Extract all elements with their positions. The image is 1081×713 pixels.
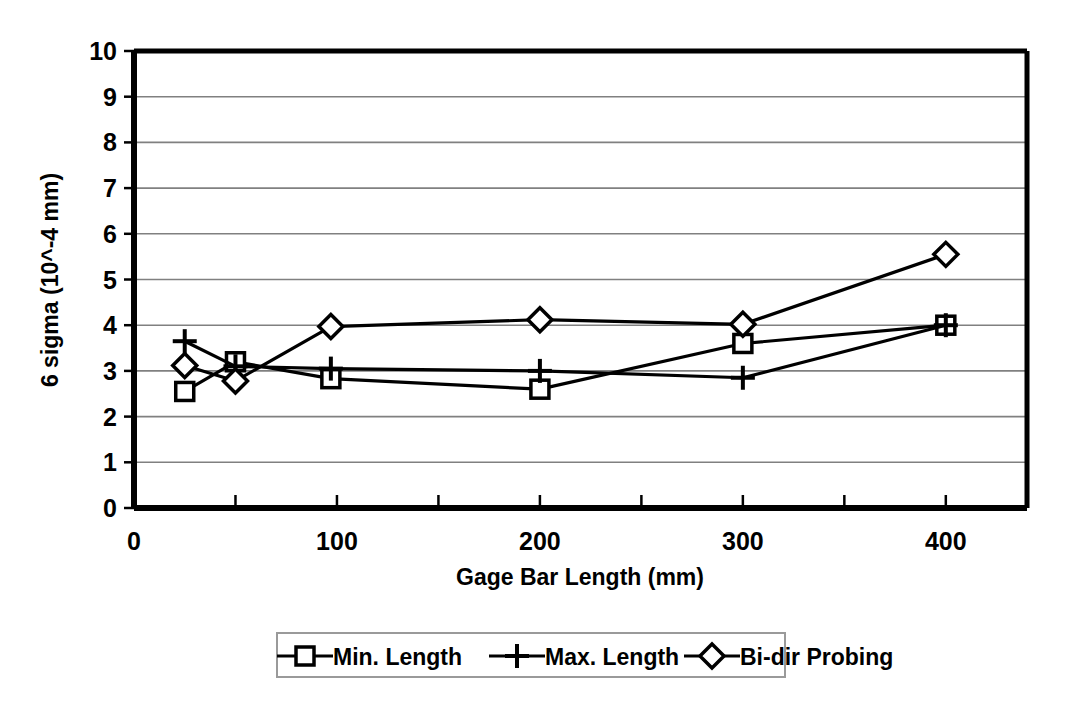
x-tick-label-0: 0: [127, 527, 141, 555]
y-tick-label-4: 4: [103, 311, 117, 339]
x-tick-label-300: 300: [722, 527, 764, 555]
x-axis-title: Gage Bar Length (mm): [456, 564, 704, 590]
y-tick-label-3: 3: [103, 357, 117, 385]
line-chart-figure: 012345678910 0100200300400 Gage Bar Leng…: [0, 0, 1081, 713]
chart-container: 012345678910 0100200300400 Gage Bar Leng…: [0, 0, 1081, 713]
y-tick-label-9: 9: [103, 83, 117, 111]
y-tick-label-0: 0: [103, 494, 117, 522]
legend-item-max-length[interactable]: Max. Length: [489, 644, 679, 670]
legend-label-min-length: Min. Length: [333, 644, 462, 670]
data-point-0-0: [176, 382, 194, 400]
y-tick-label-5: 5: [103, 266, 117, 294]
y-tick-label-6: 6: [103, 220, 117, 248]
legend-items: Min. LengthMax. LengthBi-dir Probing: [277, 644, 893, 670]
legend-label-bi-dir-probing: Bi-dir Probing: [740, 644, 893, 670]
legend-marker-min-length: [296, 647, 314, 665]
y-tick-label-8: 8: [103, 128, 117, 156]
y-axis-title: 6 sigma (10^-4 mm): [37, 173, 63, 387]
x-tick-label-200: 200: [519, 527, 561, 555]
y-tick-label-1: 1: [103, 448, 117, 476]
y-tick-label-7: 7: [103, 174, 117, 202]
x-tick-label-400: 400: [925, 527, 967, 555]
y-tick-label-10: 10: [89, 37, 117, 65]
legend-label-max-length: Max. Length: [545, 644, 679, 670]
x-tick-label-100: 100: [316, 527, 358, 555]
y-tick-label-2: 2: [103, 403, 117, 431]
legend-item-min-length[interactable]: Min. Length: [277, 644, 462, 670]
legend-item-bi-dir-probing[interactable]: Bi-dir Probing: [684, 644, 893, 670]
figure-background: [0, 0, 1081, 713]
